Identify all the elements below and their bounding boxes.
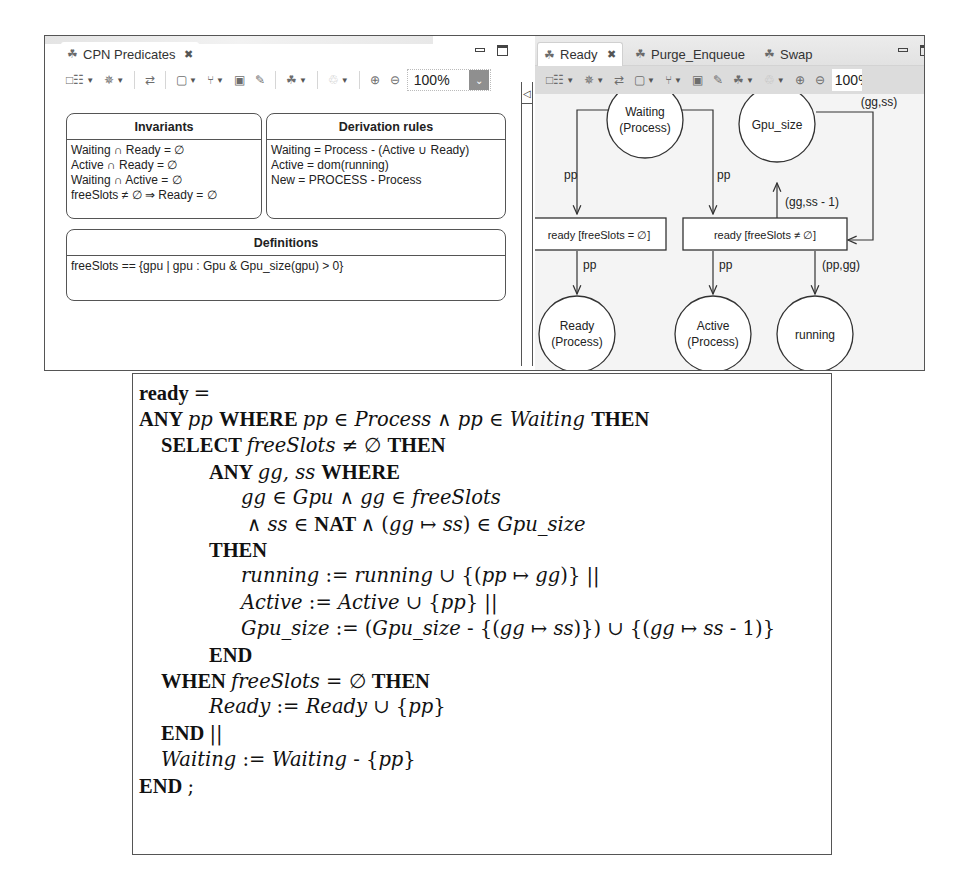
derivation-line: Active = dom(running) [271,158,501,173]
filter-icon: ⑂ [665,73,672,87]
arc-label: (gg,ss - 1) [785,195,839,209]
petri-net-canvas[interactable]: Waiting (Process) Gpu_size Ready (Proces… [535,94,924,370]
tab-swap[interactable]: ☘ Swap [758,42,819,66]
tab-ready[interactable]: ☘ Ready ✖ [537,42,623,66]
arrange-button[interactable]: ✵▼ [581,70,607,90]
arrange-button[interactable]: ✵▼ [101,70,127,90]
maximize-button[interactable] [920,45,925,56]
zoom-level-combo[interactable]: 100% [832,69,862,91]
minimize-button[interactable] [475,48,485,52]
edit-button[interactable]: ✎ [252,70,268,90]
derivation-rules-title: Derivation rules [267,114,505,140]
formal-line: ready = [139,380,831,406]
diagram-icon: ☘ [635,47,646,61]
delete-button[interactable]: ♲▼ [325,70,352,90]
operator: ∧ [247,513,267,536]
transition-ready-nonempty[interactable]: ready [freeSlots ≠ ∅] [683,218,847,250]
toolbar-separator [275,71,276,89]
place-gpu-size[interactable]: Gpu_size [739,94,815,162]
zoom-level-combo[interactable]: 100% ⌄ [407,69,491,91]
toolbar-separator [165,71,166,89]
eclipse-screenshot: ☘ CPN Predicates ✖ □☷▼ ✵▼ ⇄ ▢▼ ⑂▼ ▣ ✎ ☘▼… [44,35,925,371]
zoom-out-button[interactable]: ⊖ [387,70,403,90]
identifier: Process [355,408,438,431]
formal-line: SELECT freeSlots ≠ ∅ THEN [139,432,831,458]
formal-line: WHEN freeSlots = ∅ THEN [139,668,831,694]
tab-cpn-predicates[interactable]: ☘ CPN Predicates ✖ [61,42,199,66]
place-waiting[interactable]: Waiting (Process) [607,94,683,158]
layout-button[interactable]: □☷▼ [543,70,577,90]
identifier: gg [360,486,391,509]
layout-button[interactable]: □☷▼ [63,70,97,90]
tab-purge-enqueue[interactable]: ☘ Purge_Enqueue [629,42,751,66]
formal-line: END ; [139,773,831,799]
zoom-in-button[interactable]: ⊕ [792,70,808,90]
identifier: pp [482,564,513,587]
dropdown-icon: ▼ [299,76,307,85]
zoom-out-button[interactable]: ⊖ [812,70,828,90]
invariants-body: Waiting ∩ Ready = ∅ Active ∩ Ready = ∅ W… [67,140,261,206]
identifier: Waiting [510,408,592,431]
left-toolbar: □☷▼ ✵▼ ⇄ ▢▼ ⑂▼ ▣ ✎ ☘▼ ♲▼ ⊕ ⊖ 100% ⌄ [45,66,513,94]
delete-button[interactable]: ♲▼ [761,70,788,90]
identifier: gg [389,513,420,536]
close-tab-icon[interactable]: ✖ [607,48,616,61]
diagram-icon: ☘ [544,48,555,62]
definition-line: freeSlots == {gpu | gpu : Gpu & Gpu_size… [71,259,501,274]
svg-text:(Process): (Process) [551,335,602,349]
dropdown-icon: ▼ [566,76,574,85]
place-running[interactable]: running [777,296,853,371]
svg-text:running: running [795,328,835,342]
invariants-box[interactable]: Invariants Waiting ∩ Ready = ∅ Active ∩ … [66,113,262,219]
invariant-line: Waiting ∩ Active = ∅ [71,173,257,188]
formal-line: ∧ ss ∈ NAT ∧ (gg ↦ ss) ∈ Gpu_size [139,511,831,537]
hierarchy-button[interactable]: ☘▼ [283,70,310,90]
identifier: gg [535,564,560,587]
select-button[interactable]: ▢▼ [631,70,658,90]
arc-label: pp [717,168,731,182]
close-tab-icon[interactable]: ✖ [184,48,193,61]
export-button[interactable]: ▣ [689,70,706,90]
operator: ↦ [513,564,536,587]
link-button[interactable]: ⇄ [611,70,627,90]
filter-button[interactable]: ⑂▼ [662,70,685,90]
derivation-rules-box[interactable]: Derivation rules Waiting = Process - (Ac… [266,113,506,219]
formal-line: running := running ∪ {(pp ↦ gg)} || [139,563,831,589]
edit-button[interactable]: ✎ [710,70,726,90]
hierarchy-button[interactable]: ☘▼ [730,70,757,90]
collapse-left-icon[interactable]: ◁ [521,84,533,104]
arc-label: pp [564,168,578,182]
identifier: pp [378,748,403,771]
zoom-level-value: 100% [835,72,862,88]
minimize-button[interactable] [898,48,908,52]
dropdown-icon: ▼ [596,76,604,85]
definitions-box[interactable]: Definitions freeSlots == {gpu | gpu : Gp… [66,229,506,301]
tab-label: Ready [560,47,598,62]
place-ready[interactable]: Ready (Process) [539,296,615,371]
identifier: Gpu_size [372,617,467,640]
keyword: THEN [372,670,430,692]
view-divider[interactable]: ◁ [513,36,535,370]
transition-ready-empty[interactable]: ready [freeSlots = ∅] [535,218,666,250]
formal-line: Waiting := Waiting - {pp} [139,747,831,773]
operator: } [433,695,445,718]
link-button[interactable]: ⇄ [142,70,158,90]
chevron-down-icon[interactable]: ⌄ [469,70,489,90]
filter-button[interactable]: ⑂▼ [204,70,227,90]
edit-icon: ✎ [713,73,723,87]
operator: ∧ [340,486,360,509]
export-button[interactable]: ▣ [231,70,248,90]
dropdown-icon: ▼ [746,76,754,85]
keyword: ANY [209,461,258,483]
svg-text:(Process): (Process) [687,335,738,349]
maximize-button[interactable] [497,45,508,56]
invariant-line: Waiting ∩ Ready = ∅ [71,143,257,158]
right-toolbar: □☷▼ ✵▼ ⇄ ▢▼ ⑂▼ ▣ ✎ ☘▼ ♲▼ ⊕ ⊖ 100% [535,66,924,94]
identifier: Active [241,591,309,614]
select-button[interactable]: ▢▼ [173,70,200,90]
zoom-in-button[interactable]: ⊕ [367,70,383,90]
identifier: Gpu_size [497,513,585,536]
place-active[interactable]: Active (Process) [675,296,751,371]
link-icon: ⇄ [614,73,624,87]
operator: )} || [560,564,599,587]
